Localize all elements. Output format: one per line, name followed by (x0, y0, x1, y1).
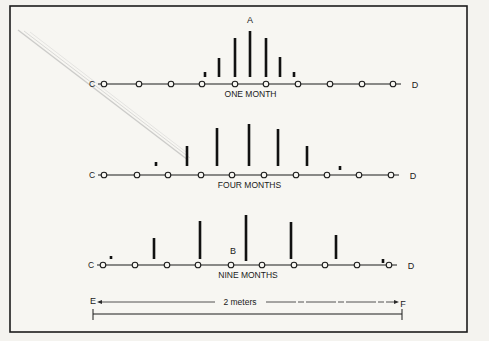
transect-node (101, 81, 107, 87)
transect-node (198, 172, 204, 178)
dispersal-bar (249, 31, 252, 77)
figure-frame (10, 6, 467, 332)
transect-node (327, 81, 333, 87)
row-caption: FOUR MONTHS (218, 180, 282, 190)
transect-node (164, 262, 170, 268)
dispersal-bar (110, 256, 113, 259)
transect-node (165, 172, 171, 178)
transect-node (356, 172, 362, 178)
transect-node (390, 81, 396, 87)
dispersal-bar (153, 238, 156, 259)
pollen-dispersal-diagram: CDONE MONTHCDFOUR MONTHSCDNINE MONTHS A … (0, 0, 489, 341)
dispersal-bar (204, 72, 207, 77)
transect-node (168, 81, 174, 87)
label-c: C (89, 79, 95, 89)
label-e: E (90, 296, 96, 306)
row-caption: ONE MONTH (225, 89, 277, 99)
transect-node (134, 172, 140, 178)
transect-node (100, 262, 106, 268)
dispersal-bar (293, 72, 296, 77)
label-c: C (89, 170, 95, 180)
label-c: C (88, 260, 94, 270)
dispersal-bar (335, 235, 338, 259)
dispersal-bar (199, 221, 202, 259)
dispersal-bar (382, 259, 385, 263)
scale-label: 2 meters (223, 297, 256, 307)
dispersal-bar (339, 166, 342, 170)
transect-node (263, 81, 269, 87)
transect-node (261, 172, 267, 178)
label-d: D (412, 80, 419, 90)
transect-node (359, 81, 365, 87)
dispersal-bar (306, 146, 309, 166)
transect-node (386, 262, 392, 268)
transect-node (228, 262, 234, 268)
transect-node (324, 172, 330, 178)
dispersal-bar (248, 124, 251, 166)
transect-node (295, 81, 301, 87)
dispersal-bar (155, 162, 158, 166)
dispersal-bar (218, 58, 221, 77)
transect-node (291, 262, 297, 268)
label-d: D (410, 171, 417, 181)
dispersal-bar (277, 129, 280, 166)
transect-node (354, 262, 360, 268)
dispersal-bar (245, 215, 248, 261)
transect-node (136, 81, 142, 87)
transect-node (259, 262, 265, 268)
dispersal-bar (186, 146, 189, 166)
dispersal-bar (290, 222, 293, 259)
transect-node (229, 172, 235, 178)
transect-node (232, 81, 238, 87)
row-caption: NINE MONTHS (218, 270, 278, 280)
dispersal-bar (234, 38, 237, 77)
label-f: F (400, 299, 406, 309)
label-b: B (230, 246, 236, 256)
dispersal-bar (265, 38, 268, 77)
transect-node (132, 262, 138, 268)
label-a: A (247, 15, 253, 25)
dispersal-bar (279, 57, 282, 77)
transect-node (195, 262, 201, 268)
transect-node (388, 172, 394, 178)
transect-node (293, 172, 299, 178)
dispersal-bar (216, 128, 219, 166)
transect-node (101, 172, 107, 178)
transect-node (199, 81, 205, 87)
label-d: D (408, 261, 415, 271)
transect-node (322, 262, 328, 268)
